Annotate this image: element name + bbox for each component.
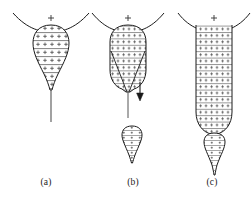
- panel-label-a: (a): [26, 177, 66, 187]
- panel-label-c: (c): [192, 177, 232, 187]
- panel-label-b: (b): [113, 177, 153, 187]
- column-hatch-c: [192, 23, 236, 138]
- figure-diagram: [0, 0, 251, 200]
- figure-container: (a) (b) (c): [0, 0, 251, 200]
